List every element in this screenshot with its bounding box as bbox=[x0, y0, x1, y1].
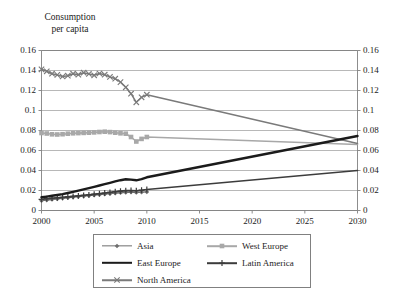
data-marker bbox=[91, 191, 97, 197]
data-marker bbox=[219, 260, 225, 266]
data-marker bbox=[118, 79, 123, 84]
data-marker bbox=[50, 132, 55, 137]
data-marker bbox=[134, 139, 139, 144]
legend-item-asia[interactable]: Asia bbox=[102, 238, 154, 254]
legend-swatch-icon bbox=[207, 240, 237, 252]
series-east-europe bbox=[42, 136, 358, 197]
data-marker bbox=[113, 130, 118, 135]
legend-item-east-europe[interactable]: East Europe bbox=[102, 255, 181, 271]
data-marker bbox=[39, 131, 44, 136]
data-marker bbox=[71, 131, 76, 136]
series-line bbox=[42, 136, 358, 197]
legend-marker-icon bbox=[207, 257, 237, 269]
legend-marker-icon bbox=[102, 240, 132, 252]
y-tick-label-left: 0.12 bbox=[0, 85, 36, 95]
legend-item-west-europe[interactable]: West Europe bbox=[207, 238, 288, 254]
legend-marker-icon bbox=[207, 240, 237, 252]
x-tick-label: 2020 bbox=[230, 216, 274, 226]
data-marker bbox=[139, 95, 144, 100]
x-tick-label: 2015 bbox=[178, 216, 222, 226]
data-marker bbox=[102, 129, 107, 134]
data-marker bbox=[108, 130, 113, 135]
legend-swatch-icon bbox=[102, 274, 132, 286]
y-tick-label-right: 0.06 bbox=[363, 145, 397, 155]
data-marker bbox=[66, 131, 71, 136]
y-tick-label-left: 0.08 bbox=[0, 125, 36, 135]
y-tick-label-left: 0.1 bbox=[0, 105, 36, 115]
y-tick-label-left: 0.06 bbox=[0, 145, 36, 155]
y-tick-label-left: 0 bbox=[0, 205, 36, 215]
y-tick-label-left: 0.14 bbox=[0, 65, 36, 75]
data-marker bbox=[128, 91, 133, 96]
y-tick-label-right: 0.04 bbox=[363, 165, 397, 175]
data-marker bbox=[97, 191, 103, 197]
data-marker bbox=[70, 194, 76, 200]
y-tick-label-right: 0.1 bbox=[363, 105, 397, 115]
data-marker bbox=[75, 193, 81, 199]
data-marker bbox=[76, 131, 81, 136]
y-tick-label-right: 0.12 bbox=[363, 85, 397, 95]
legend-item-latin-america[interactable]: Latin America bbox=[207, 255, 294, 271]
data-marker bbox=[86, 192, 92, 198]
x-tick-label: 2025 bbox=[283, 216, 327, 226]
legend-swatch-icon bbox=[102, 240, 132, 252]
x-tick-label: 2010 bbox=[125, 216, 169, 226]
y-tick-label-right: 0.08 bbox=[363, 125, 397, 135]
y-tick-label-left: 0.16 bbox=[0, 45, 36, 55]
data-marker bbox=[123, 131, 128, 136]
legend-label: Latin America bbox=[242, 258, 294, 268]
data-marker bbox=[114, 277, 119, 282]
legend-label: Asia bbox=[137, 241, 154, 251]
y-tick-label-right: 0 bbox=[363, 205, 397, 215]
legend-label: North America bbox=[137, 275, 191, 285]
series-west-europe bbox=[39, 129, 357, 144]
series-latin-america bbox=[39, 171, 358, 203]
data-marker bbox=[123, 85, 128, 90]
legend-label: West Europe bbox=[242, 241, 288, 251]
data-marker bbox=[115, 244, 120, 249]
data-marker bbox=[55, 132, 60, 137]
data-marker bbox=[81, 192, 87, 198]
data-marker bbox=[145, 135, 150, 140]
consumption-per-capita-chart: Consumptionper capita 00.020.040.060.080… bbox=[0, 0, 398, 299]
data-marker bbox=[87, 130, 92, 135]
legend-swatch-icon bbox=[207, 257, 237, 269]
y-tick-label-right: 0.14 bbox=[363, 65, 397, 75]
data-marker bbox=[139, 137, 144, 142]
data-marker bbox=[118, 131, 123, 136]
legend-item-north-america[interactable]: North America bbox=[102, 272, 191, 288]
data-marker bbox=[81, 131, 86, 136]
data-marker bbox=[134, 100, 139, 105]
data-marker bbox=[65, 194, 71, 200]
x-tick-label: 2030 bbox=[336, 216, 380, 226]
data-marker bbox=[60, 132, 65, 137]
data-marker bbox=[129, 135, 134, 140]
data-marker bbox=[220, 244, 225, 249]
legend-swatch-icon bbox=[102, 257, 132, 269]
chart-legend: AsiaWest EuropeEast EuropeLatin AmericaN… bbox=[93, 234, 311, 288]
y-tick-label-left: 0.02 bbox=[0, 185, 36, 195]
x-tick-label: 2005 bbox=[72, 216, 116, 226]
legend-label: East Europe bbox=[137, 258, 181, 268]
y-tick-label-right: 0.02 bbox=[363, 185, 397, 195]
x-tick-label: 2000 bbox=[20, 216, 64, 226]
legend-marker-icon bbox=[102, 274, 132, 286]
data-marker bbox=[92, 130, 97, 135]
y-tick-label-left: 0.04 bbox=[0, 165, 36, 175]
data-marker bbox=[44, 131, 49, 136]
data-marker bbox=[97, 130, 102, 135]
y-tick-label-right: 0.16 bbox=[363, 45, 397, 55]
